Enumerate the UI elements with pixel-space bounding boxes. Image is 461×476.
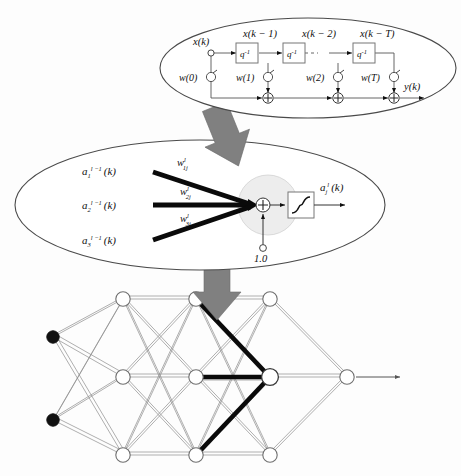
weight-label-2: w(2) [306,72,325,84]
weight-label-0: w(0) [179,72,198,84]
diagram-root: 1.0 a1l −1(k) a2l −1(k) a3l −1(k) wl1j [0,0,461,476]
delay-input-node [208,50,214,56]
tapped-delay-line-ellipse: q-1 q-1 q-1 [160,18,456,118]
tap-signal-label-2: x(k − 2) [301,28,336,40]
neuron-detail-ellipse: 1.0 a1l −1(k) a2l −1(k) a3l −1(k) wl1j [15,140,385,270]
neuron-output-label: ajl(k) [320,181,344,195]
figure-canvas: 1.0 a1l −1(k) a2l −1(k) a3l −1(k) wl1j [0,0,461,476]
bias-node [260,245,267,252]
highlighted-node [262,369,279,386]
weight-label-1: w(1) [236,72,255,84]
delay-input-label: x(k) [192,36,210,48]
delay-boxes: q-1 q-1 q-1 [236,43,375,63]
tap-signal-label-3: x(k − T) [359,28,395,40]
weight-label-T: w(T) [361,72,381,84]
delay-output-label: y(k) [403,81,421,93]
network-architecture [47,292,400,462]
bias-label: 1.0 [254,253,268,264]
tap-signal-label-1: x(k − 1) [242,28,277,40]
highlighted-edges [198,301,268,453]
zoom-arrow-bottom [193,262,241,320]
